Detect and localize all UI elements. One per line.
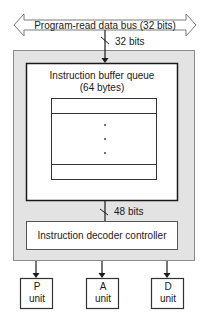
ellipsis-dot [104,152,106,154]
data-bus-label: Program-read data bus (32 bits) [24,20,186,31]
a-unit-letter: A [87,281,119,293]
p-unit-word: unit [21,293,53,305]
arrowhead-down-icon [33,273,40,278]
arrowhead-down-icon [164,273,171,278]
ellipsis-dot [104,138,106,140]
a-unit-label: A unit [87,281,119,305]
d-unit-word: unit [152,293,184,305]
arrowhead-down-icon [99,273,106,278]
d-unit-letter: D [152,281,184,293]
p-unit-letter: P [21,281,53,293]
queue-size: (64 bytes) [27,82,177,93]
decoder-label: Instruction decoder controller [27,230,177,241]
p-unit-label: P unit [21,281,53,305]
bus-width-label: 32 bits [115,36,144,47]
diagram-canvas [0,0,206,326]
queue-table [52,99,157,180]
ellipsis-dot [104,124,106,126]
a-unit-word: unit [87,293,119,305]
d-unit-label: D unit [152,281,184,305]
decoder-width-label: 48 bits [114,206,143,217]
queue-title: Instruction buffer queue [27,70,177,81]
